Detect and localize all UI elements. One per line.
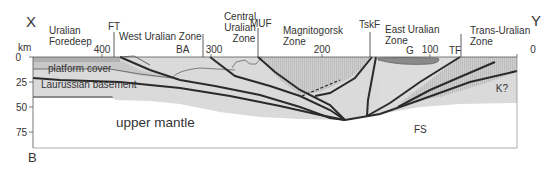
zone-west-uralian: West Uralian Zone xyxy=(119,31,202,42)
zone-magnitogorsk-2: Zone xyxy=(283,36,306,47)
zone-magnitogorsk-1: Magnitogorsk xyxy=(283,25,344,36)
x-tick-400: 400 xyxy=(94,44,111,55)
fs-marks xyxy=(373,127,418,140)
x-tick-0: 0 xyxy=(530,44,536,55)
fault-tf: TF xyxy=(449,45,461,56)
zone-uralian-foredeep-2: Foredeep xyxy=(49,36,92,47)
fault-ft: FT xyxy=(108,21,120,32)
x-tick-200: 200 xyxy=(314,44,331,55)
y-tick-0: 0 xyxy=(15,52,21,63)
endpoint-x: X xyxy=(26,13,36,30)
feature-ba: BA xyxy=(176,44,190,55)
zone-east-uralian-2: Zone xyxy=(385,35,408,46)
fault-muf: MUF xyxy=(250,18,272,29)
y-tick-25: 25 xyxy=(16,77,28,88)
geological-cross-section: X Y km 0 25 50 75 400 300 200 100 0 Ural… xyxy=(0,0,550,175)
layer-platform-cover: platform cover xyxy=(48,63,112,74)
zone-trans-uralian-1: Trans-Uralian xyxy=(470,25,530,36)
fault-tskf: TskF xyxy=(359,19,380,30)
layer-laurussian-basement: Laurussian basement xyxy=(41,79,137,90)
zone-uralian-foredeep-1: Uralian xyxy=(49,25,81,36)
panel-label: B xyxy=(28,150,37,165)
y-ticks xyxy=(29,57,33,132)
feature-fs: FS xyxy=(414,124,427,135)
zone-east-uralian-1: East Uralian xyxy=(385,24,439,35)
endpoint-y: Y xyxy=(531,12,541,29)
feature-g: G xyxy=(406,45,414,56)
x-tick-100: 100 xyxy=(422,44,439,55)
zone-trans-uralian-2: Zone xyxy=(470,36,493,47)
layer-upper-mantle: upper mantle xyxy=(116,115,195,130)
y-tick-50: 50 xyxy=(16,102,28,113)
platform-cover-top xyxy=(33,57,120,62)
y-tick-75: 75 xyxy=(16,127,28,138)
feature-k: K? xyxy=(496,83,509,94)
x-tick-300: 300 xyxy=(206,44,223,55)
zone-central-uralian-3: Zone xyxy=(233,33,256,44)
